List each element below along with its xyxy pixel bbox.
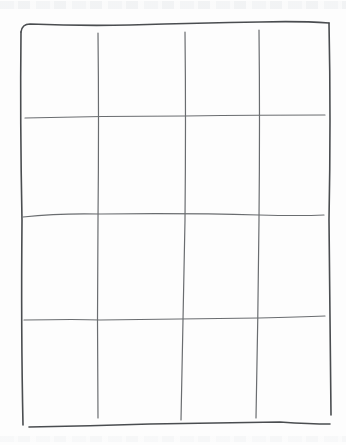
- grid-vertical-line-2: [181, 32, 186, 420]
- grid-border-top: [21, 22, 329, 32]
- grid-border-left: [21, 32, 23, 425]
- paper-sheet: [0, 0, 346, 445]
- hand-drawn-grid: [0, 0, 346, 445]
- grid-horizontal-line-1: [25, 115, 325, 118]
- grid-border-bottom: [29, 422, 330, 427]
- grid-vertical-line-3: [256, 30, 260, 418]
- grid-horizontal-line-2: [23, 214, 324, 217]
- grid-vertical-line-1: [98, 33, 99, 418]
- grid-horizontal-line-3: [24, 316, 325, 320]
- grid-border-right: [329, 23, 331, 415]
